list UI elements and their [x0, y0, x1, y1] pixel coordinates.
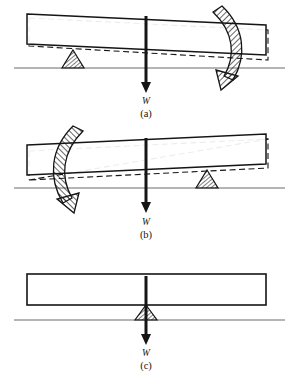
- fulcrum-triangle-a: [62, 50, 84, 68]
- panel-c: W (c): [14, 274, 285, 371]
- figure-canvas: W (a): [0, 0, 293, 371]
- fulcrum-b: [196, 170, 218, 188]
- load-arrow-head-a: [141, 82, 151, 93]
- fulcrum-a: [62, 50, 84, 68]
- load-arrow-head-b: [141, 202, 151, 213]
- panel-caption-b: (b): [140, 229, 153, 241]
- load-label-b: W: [142, 217, 151, 227]
- mechanics-figure: W (a): [0, 0, 293, 371]
- panel-b: W (b): [14, 126, 285, 241]
- load-arrow-head-c: [141, 334, 151, 345]
- load-label-c: W: [142, 348, 151, 358]
- load-label-a: W: [142, 96, 151, 106]
- panel-caption-c: (c): [140, 360, 152, 371]
- fulcrum-triangle-b: [196, 170, 218, 188]
- panel-a: W (a): [14, 6, 285, 120]
- panel-caption-a: (a): [140, 108, 152, 120]
